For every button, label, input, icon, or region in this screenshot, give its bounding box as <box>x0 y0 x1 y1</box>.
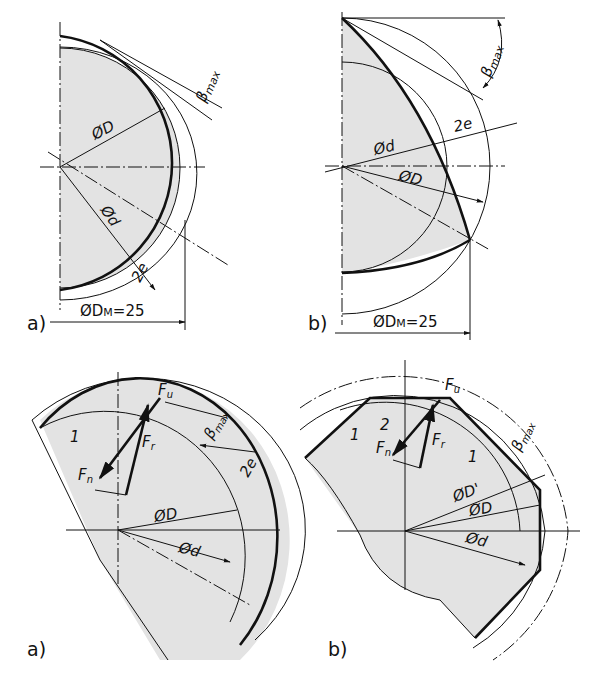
svg-text:ØDM=25: ØDM=25 <box>80 302 145 320</box>
label-Fn: F <box>376 439 385 457</box>
svg-text:βmax: βmax <box>192 66 224 106</box>
technical-drawing: ØD Ød βmax 2e ØDM=25 a) Ød ØD 2e βmax ØD… <box>0 0 609 689</box>
panel-label-bottom-a: a) <box>27 638 46 660</box>
panel-top-a: ØD Ød βmax 2e ØDM=25 a) <box>27 22 228 334</box>
svg-text:Fu: Fu <box>445 376 460 395</box>
panel-top-b: Ød ØD 2e βmax ØDM=25 b) <box>308 12 517 340</box>
label-DM: ØD <box>80 302 103 320</box>
panel-bottom-b: Fu Fr Fn 1 2 1 βmax ØD' ØD Ød b) <box>300 360 580 660</box>
label-DM: ØD <box>373 313 396 331</box>
label-1b: 1 <box>468 448 478 466</box>
label-1: 1 <box>350 426 360 444</box>
label-Fr: F <box>432 431 441 449</box>
panel-label-top-a: a) <box>27 312 46 334</box>
label-Fu: F <box>445 376 454 394</box>
label-Fn: F <box>78 466 87 484</box>
label-2: 2 <box>380 416 390 434</box>
panel-label-top-b: b) <box>308 312 327 334</box>
svg-text:ØDM=25: ØDM=25 <box>373 313 438 331</box>
label-Fr: F <box>142 433 151 451</box>
panel-bottom-a: Fu Fr Fn 1 βmax 2e ØD Ød a) <box>27 372 305 660</box>
label-Fu: F <box>158 381 167 399</box>
panel-label-bottom-b: b) <box>328 638 347 660</box>
svg-text:βmax: βmax <box>477 41 508 81</box>
label-2e: 2e <box>452 114 475 136</box>
label-1: 1 <box>70 428 80 446</box>
